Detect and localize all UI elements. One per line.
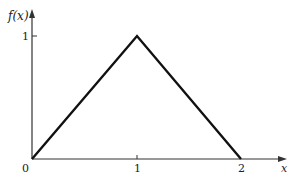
chart: f(x) 1 0 1 2 x <box>0 0 301 182</box>
x-tick-label-0: 0 <box>22 163 29 174</box>
y-tick-label-1: 1 <box>22 31 29 42</box>
y-axis-arrow-icon <box>29 9 35 18</box>
plot-area <box>0 0 301 182</box>
x-tick-label-2: 2 <box>238 163 245 174</box>
data-line <box>32 36 241 159</box>
x-axis-label: x <box>281 163 287 174</box>
x-tick-label-1: 1 <box>134 163 141 174</box>
y-axis-label: f(x) <box>8 10 29 22</box>
